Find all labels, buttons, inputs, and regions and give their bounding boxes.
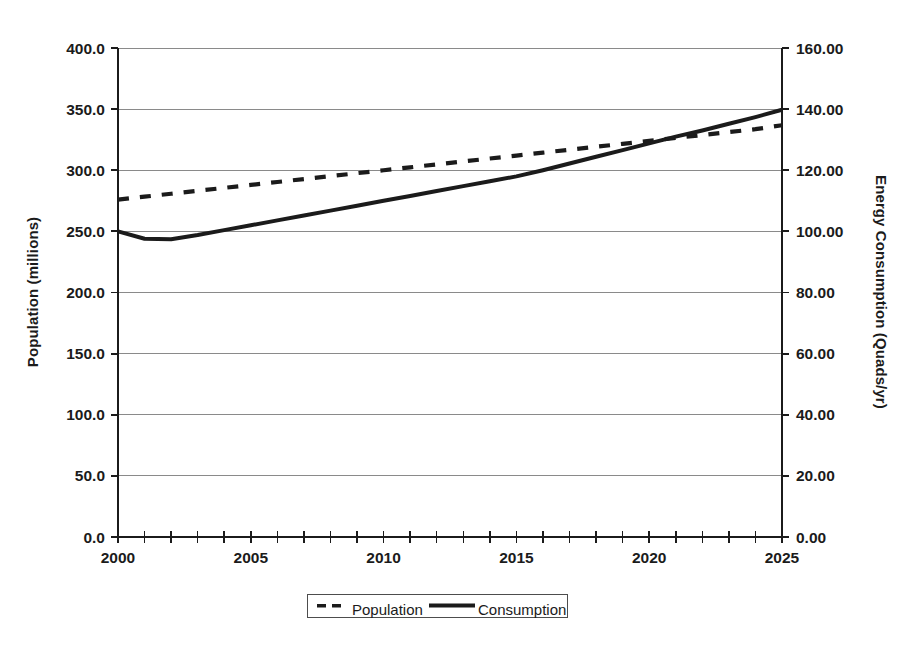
- right-axis: [782, 48, 789, 537]
- right-tick-label: 100.00: [796, 223, 843, 240]
- right-tick-label: 80.00: [796, 284, 835, 301]
- left-tick-label: 50.0: [75, 467, 105, 484]
- right-axis-title: Energy Consumption (Quads/yr): [873, 175, 890, 409]
- right-tick-label: 0.00: [796, 529, 826, 546]
- left-tick-label: 150.0: [66, 345, 105, 362]
- x-tick-label: 2005: [234, 549, 269, 566]
- left-axis-title: Population (millions): [24, 217, 41, 367]
- legend-label-consumption: Consumption: [478, 601, 566, 618]
- chart-container: 400.0350.0300.0250.0200.0150.0100.050.00…: [0, 0, 909, 653]
- line-chart: 400.0350.0300.0250.0200.0150.0100.050.00…: [0, 0, 909, 653]
- left-tick-label: 0.0: [83, 529, 105, 546]
- right-tick-label: 60.00: [796, 345, 835, 362]
- left-tick-label: 100.0: [66, 406, 105, 423]
- right-tick-label: 140.00: [796, 101, 843, 118]
- right-tick-label: 160.00: [796, 40, 843, 57]
- x-tick-label: 2010: [366, 549, 400, 566]
- x-axis-tick-labels: 200020052010201520202025: [101, 549, 800, 566]
- left-tick-label: 250.0: [66, 223, 105, 240]
- right-tick-label: 40.00: [796, 406, 835, 423]
- left-tick-label: 200.0: [66, 284, 105, 301]
- right-tick-label: 20.00: [796, 467, 835, 484]
- left-tick-label: 300.0: [66, 162, 105, 179]
- x-tick-label: 2000: [101, 549, 135, 566]
- legend-swatch-consumption: [429, 604, 475, 608]
- legend-label-population: Population: [352, 601, 423, 618]
- x-tick-label: 2015: [499, 549, 534, 566]
- left-tick-label: 400.0: [66, 40, 105, 57]
- x-tick-label: 2020: [632, 549, 666, 566]
- left-axis-tick-labels: 400.0350.0300.0250.0200.0150.0100.050.00…: [66, 40, 105, 546]
- right-tick-label: 120.00: [796, 162, 843, 179]
- left-axis: [111, 48, 118, 537]
- chart-legend: Population Consumption: [307, 594, 567, 618]
- left-tick-label: 350.0: [66, 101, 105, 118]
- right-axis-tick-labels: 160.00140.00120.00100.0080.0060.0040.002…: [796, 40, 843, 546]
- x-tick-label: 2025: [765, 549, 800, 566]
